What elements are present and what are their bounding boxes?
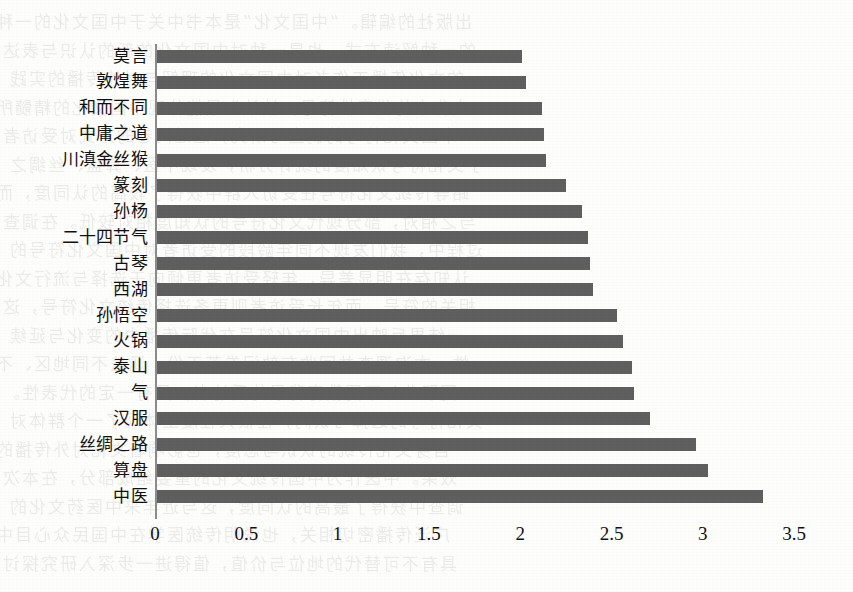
bar xyxy=(157,257,590,270)
category-label: 古琴 xyxy=(113,255,148,272)
category-label: 篆刻 xyxy=(113,177,148,194)
category-label: 中医 xyxy=(113,488,148,505)
bar xyxy=(157,179,566,192)
bar xyxy=(157,102,542,115)
bar xyxy=(157,309,617,322)
category-label: 敦煌舞 xyxy=(96,73,148,90)
category-label: 川滇金丝猴 xyxy=(62,151,149,168)
x-tick-label: 1 xyxy=(333,524,343,543)
bar xyxy=(157,283,593,296)
category-label: 二十四节气 xyxy=(62,229,149,246)
x-tick-label: 2 xyxy=(515,524,525,543)
category-label: 汉服 xyxy=(113,410,148,427)
bar xyxy=(157,128,544,141)
category-label: 丝绸之路 xyxy=(79,436,148,453)
category-label: 火锅 xyxy=(113,332,148,349)
horizontal-bar-chart: 莫言敦煌舞和而不同中庸之道川滇金丝猴篆刻孙杨二十四节气古琴西湖孙悟空火锅泰山气汉… xyxy=(0,0,853,592)
category-label: 气 xyxy=(131,384,148,401)
bar xyxy=(157,154,546,167)
bar xyxy=(157,76,526,89)
category-label: 算盘 xyxy=(113,462,148,479)
x-tick-label: 0 xyxy=(150,524,160,543)
x-tick-label: 3 xyxy=(698,524,708,543)
x-tick-label: 0.5 xyxy=(234,524,258,543)
bar xyxy=(157,50,522,63)
category-label: 中庸之道 xyxy=(79,125,148,142)
bar xyxy=(157,387,634,400)
category-label: 泰山 xyxy=(113,358,148,375)
x-tick-label: 3.5 xyxy=(782,524,806,543)
bar xyxy=(157,464,708,477)
category-label: 孙杨 xyxy=(113,203,148,220)
bar xyxy=(157,335,623,348)
bar xyxy=(157,361,632,374)
category-label: 西湖 xyxy=(113,281,148,298)
x-tick-label: 1.5 xyxy=(417,524,441,543)
category-label: 莫言 xyxy=(113,48,148,65)
category-label: 孙悟空 xyxy=(96,307,148,324)
bar xyxy=(157,438,696,451)
bar xyxy=(157,412,650,425)
bar xyxy=(157,231,588,244)
scanned-page: 出版社的编辑。“中国文化”是本书中关于中国文化的一种的一种解读方式，也是一种对中… xyxy=(0,0,853,592)
bar xyxy=(157,490,763,503)
category-label: 和而不同 xyxy=(79,99,148,116)
bar xyxy=(157,205,582,218)
x-tick-label: 2.5 xyxy=(600,524,624,543)
